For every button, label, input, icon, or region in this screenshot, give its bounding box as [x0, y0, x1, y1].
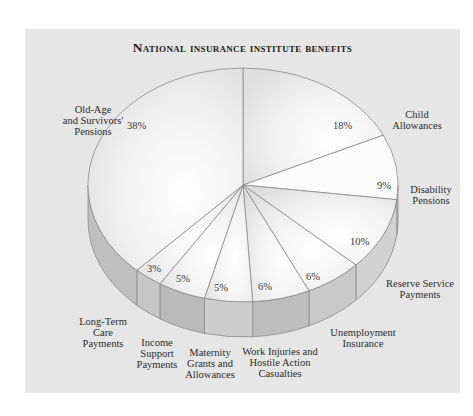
pct-unemployment: 6% — [306, 271, 320, 282]
label-line: Pensions — [406, 195, 456, 206]
label-line: Casualties — [238, 368, 322, 379]
label-line: Income — [134, 337, 180, 348]
pie-side-wall — [204, 298, 252, 337]
label-line: Child — [387, 109, 447, 120]
label-line: Old-Age — [52, 104, 134, 115]
label-line: Reserve Service — [382, 278, 458, 289]
label-old-age: Old-Age and Survivors' Pensions — [52, 104, 134, 137]
pct-longterm: 3% — [147, 263, 161, 274]
label-line: Long-Term — [78, 316, 128, 327]
label-line: Support — [134, 348, 180, 359]
pct-disability: 9% — [377, 180, 391, 191]
label-line: Allowances — [387, 120, 447, 131]
label-maternity: Maternity Grants and Allowances — [182, 347, 238, 380]
label-line: and Survivors' — [52, 115, 134, 126]
label-line: Allowances — [182, 369, 238, 380]
pct-income: 5% — [176, 273, 190, 284]
label-reserve: Reserve Service Payments — [382, 278, 458, 300]
label-line: Disability — [406, 184, 456, 195]
label-line: Unemployment — [328, 327, 398, 338]
label-income: Income Support Payments — [134, 337, 180, 370]
pct-old-age: 38% — [127, 120, 146, 131]
label-line: Grants and — [182, 358, 238, 369]
pct-work: 6% — [258, 281, 272, 292]
label-line: Pensions — [52, 126, 134, 137]
label-line: Insurance — [328, 338, 398, 349]
label-line: Care — [78, 327, 128, 338]
label-line: Hostile Action — [238, 357, 322, 368]
label-disability: Disability Pensions — [406, 184, 456, 206]
pct-maternity: 5% — [214, 282, 228, 293]
label-unemployment: Unemployment Insurance — [328, 327, 398, 349]
label-line: Payments — [78, 338, 128, 349]
label-line: Payments — [134, 359, 180, 370]
label-child: Child Allowances — [387, 109, 447, 131]
label-line: Work Injuries and — [238, 346, 322, 357]
label-longterm: Long-Term Care Payments — [78, 316, 128, 349]
label-line: Payments — [382, 289, 458, 300]
pct-reserve: 10% — [350, 236, 369, 247]
label-work: Work Injuries and Hostile Action Casualt… — [238, 346, 322, 379]
pct-child: 18% — [333, 120, 352, 131]
label-line: Maternity — [182, 347, 238, 358]
